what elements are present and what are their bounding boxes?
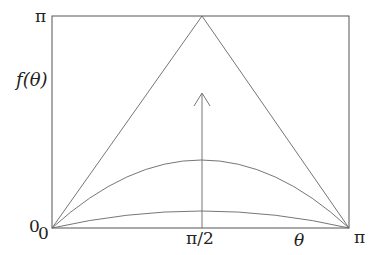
y-axis-label: f(θ): [16, 71, 48, 89]
low-arc-curve: [52, 211, 349, 228]
x-tick-pi: π: [354, 229, 365, 246]
x-axis-label: θ: [294, 232, 304, 249]
y-tick-pi: π: [35, 8, 46, 25]
x-tick-zero: 0: [38, 225, 49, 242]
plot-frame: [52, 16, 349, 228]
middle-arc-curve: [52, 160, 349, 228]
x-tick-pi-half: π/2: [186, 230, 214, 247]
figure-canvas: [0, 0, 381, 255]
triangle-curve: [52, 16, 349, 228]
